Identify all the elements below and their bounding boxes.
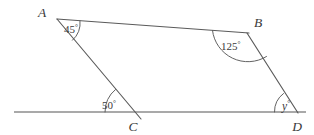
angle-value-b: 125	[221, 40, 238, 52]
angle-value-c: 50	[102, 99, 114, 111]
degree-symbol-a: °	[75, 23, 78, 32]
vertex-label-d: D	[291, 119, 302, 134]
segment-b-d	[247, 33, 298, 113]
angle-measure-c: 50°	[102, 99, 116, 112]
geometry-diagram: A B C D 45° 125° 50° y°	[0, 0, 314, 135]
segment-a-b	[57, 19, 249, 33]
geometry-figure-svg: A B C D 45° 125° 50° y°	[0, 0, 314, 135]
vertex-label-a: A	[37, 5, 47, 20]
degree-symbol-d: °	[287, 99, 290, 108]
angle-measure-a: 45°	[64, 23, 78, 36]
angle-measure-d: y°	[281, 99, 290, 113]
vertex-label-c: C	[128, 119, 138, 134]
angle-measure-b: 125°	[221, 40, 241, 53]
angle-value-a: 45	[64, 23, 76, 35]
degree-symbol-b: °	[238, 40, 241, 49]
vertex-label-b: B	[254, 15, 262, 30]
degree-symbol-c: °	[113, 99, 116, 108]
